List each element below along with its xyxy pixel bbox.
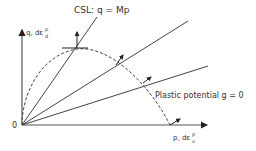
svg-text:p, dε: p, dε [173, 134, 190, 142]
plastic-potential-curve [22, 49, 170, 125]
svg-text:q, dε: q, dε [26, 29, 43, 37]
strain-increment-arrow-4 [170, 119, 180, 125]
origin-label: 0 [12, 121, 17, 130]
csl-label: CSL: q = Mp [74, 5, 130, 15]
svg-text:v: v [192, 138, 195, 144]
plastic-potential-diagram: 0 CSL: q = Mp q, dε p d Plastic potentia… [0, 0, 256, 151]
svg-text:p: p [192, 131, 195, 138]
svg-text:p: p [45, 26, 48, 33]
x-axis-label: p, dε p v [173, 131, 195, 144]
svg-text:d: d [45, 33, 48, 39]
plastic-potential-label: Plastic potential g = 0 [155, 91, 244, 100]
strain-increment-arrow-3 [143, 77, 151, 83]
y-axis-label: q, dε p d [26, 26, 48, 39]
